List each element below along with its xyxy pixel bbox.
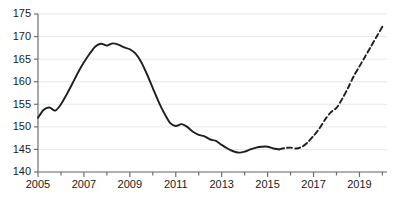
y-tick-label: 140 <box>13 165 31 177</box>
y-tick-label: 175 <box>13 7 31 19</box>
x-tick-label: 2017 <box>301 178 325 190</box>
y-tick-label: 165 <box>13 53 31 65</box>
line-chart: 140145150155160165170175 200520072009201… <box>0 0 401 204</box>
y-tick-label: 155 <box>13 98 31 110</box>
x-tick-label: 2011 <box>164 178 188 190</box>
x-tick-label: 2015 <box>255 178 279 190</box>
series-line-forecast <box>279 27 382 150</box>
x-tick-label: 2007 <box>72 178 96 190</box>
x-tick-label: 2013 <box>209 178 233 190</box>
y-tick-label: 150 <box>13 120 31 132</box>
y-tick-label: 145 <box>13 143 31 155</box>
x-axis-ticks <box>38 172 382 177</box>
y-axis-tick-labels: 140145150155160165170175 <box>13 7 31 177</box>
y-tick-label: 160 <box>13 75 31 87</box>
series-line-actual <box>38 43 279 152</box>
x-axis-tick-labels: 20052007200920112013201520172019 <box>26 178 372 190</box>
x-tick-label: 2019 <box>347 178 371 190</box>
y-tick-label: 170 <box>13 30 31 42</box>
chart-canvas: 140145150155160165170175 200520072009201… <box>0 0 401 204</box>
x-tick-label: 2005 <box>26 178 50 190</box>
x-tick-label: 2009 <box>118 178 142 190</box>
gridlines <box>38 14 387 172</box>
